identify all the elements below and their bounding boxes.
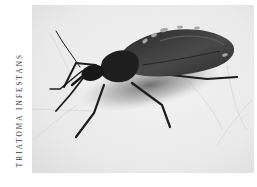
insect-photo: [32, 5, 254, 173]
figure-caption: TRIATOMA INFESTANS: [16, 53, 24, 167]
figure: TRIATOMA INFESTANS: [0, 0, 257, 187]
insect-photo-graphic: [32, 5, 254, 173]
